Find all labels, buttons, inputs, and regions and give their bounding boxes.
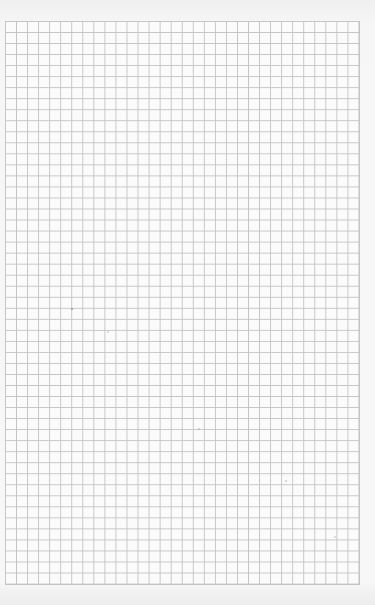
dust-speck [107,331,109,333]
dust-speck [334,536,336,538]
dust-speck [71,308,73,310]
grid-area [5,21,360,585]
dust-speck [198,428,200,430]
dust-speck [285,480,287,482]
paper-sheet [0,0,375,605]
